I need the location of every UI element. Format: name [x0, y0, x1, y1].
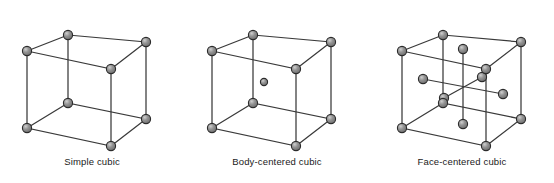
- atom-corner: [141, 37, 150, 46]
- atom-corner: [516, 114, 525, 123]
- cube-wireframe: [27, 35, 146, 146]
- corner-atoms: [22, 30, 150, 150]
- atom-face-bottom: [458, 119, 467, 128]
- atom-corner: [22, 123, 31, 132]
- atom-corner: [516, 37, 525, 46]
- atom-corner: [248, 98, 257, 107]
- caption-simple-cubic: Simple cubic: [0, 156, 184, 168]
- atom-corner: [438, 98, 447, 107]
- atom-corner: [22, 46, 31, 55]
- body-centered-cubic-diagram: [185, 0, 369, 160]
- atom-corner: [248, 30, 257, 39]
- atom-body-center: [260, 78, 267, 85]
- simple-cubic-diagram: [0, 0, 184, 160]
- atom-corner: [291, 141, 300, 150]
- atom-corner: [106, 141, 115, 150]
- atom-face-top: [458, 44, 467, 53]
- atom-corner: [141, 114, 150, 123]
- corner-atoms: [207, 30, 335, 150]
- atom-corner: [481, 64, 490, 73]
- body-center-atom-group: [260, 78, 267, 85]
- atom-corner: [326, 37, 335, 46]
- atom-corner: [63, 98, 72, 107]
- atom-corner: [481, 141, 490, 150]
- atom-corner: [438, 30, 447, 39]
- atom-corner: [207, 123, 216, 132]
- unit-cell-body-centered-cubic: Body-centered cubic: [185, 0, 369, 183]
- atom-face-right: [498, 89, 507, 98]
- atom-corner: [397, 123, 406, 132]
- atom-corner: [106, 64, 115, 73]
- atom-face-left: [418, 74, 427, 83]
- caption-body-centered-cubic: Body-centered cubic: [185, 156, 369, 168]
- caption-face-centered-cubic: Face-centered cubic: [370, 156, 554, 168]
- atom-corner: [291, 64, 300, 73]
- crystal-lattice-figure: Simple cubic: [0, 0, 554, 183]
- cube-wireframe: [212, 35, 331, 146]
- atom-corner: [63, 30, 72, 39]
- face-centered-cubic-diagram: [370, 0, 554, 160]
- atom-corner: [326, 114, 335, 123]
- atom-corner: [397, 46, 406, 55]
- unit-cell-face-centered-cubic: Face-centered cubic: [370, 0, 554, 183]
- atom-corner: [207, 46, 216, 55]
- unit-cell-simple-cubic: Simple cubic: [0, 0, 184, 183]
